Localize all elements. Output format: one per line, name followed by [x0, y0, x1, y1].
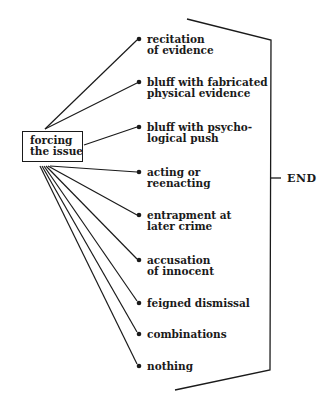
- option-feigned-dismissal: feigned dismissal: [147, 298, 250, 309]
- end-node: END: [287, 172, 316, 185]
- option-bluff-psychological-push: bluff with psycho- logical push: [147, 122, 252, 144]
- connector-lines: [0, 0, 333, 408]
- option-nothing: nothing: [147, 361, 193, 372]
- option-accusation-of-innocent: accusation of innocent: [147, 255, 214, 277]
- option-acting-or-reenacting: acting or reenacting: [147, 167, 211, 189]
- option-entrapment-later-crime: entrapment at later crime: [147, 210, 231, 232]
- option-bluff-fabricated-evidence: bluff with fabricated physical evidence: [147, 77, 268, 99]
- option-recitation-of-evidence: recitation of evidence: [147, 34, 214, 56]
- option-combinations: combinations: [147, 329, 227, 340]
- forcing-the-issue-node: forcing the issue: [22, 131, 83, 162]
